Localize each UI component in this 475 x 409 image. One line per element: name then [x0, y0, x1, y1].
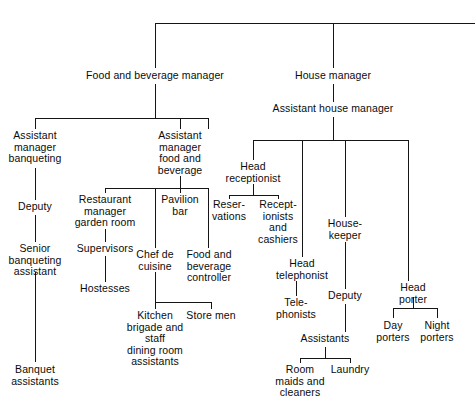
org-node-laundry: Laundry	[331, 364, 370, 376]
connector-restaurant-supervisors	[105, 229, 106, 242]
connector-ahm-bus	[253, 140, 409, 141]
org-node-asst_mgr_fb: Assistant manager food and beverage	[158, 130, 203, 176]
connector-hp-drop-night	[437, 308, 438, 318]
connector-ahm-trunk	[333, 117, 334, 140]
org-node-night_porters: Night porters	[420, 320, 453, 343]
connector-chef-drop-store	[211, 302, 212, 309]
connector-amfb-drop-controller	[208, 188, 209, 248]
org-node-senior_banq_asst: Senior banqueting assistant	[9, 243, 62, 278]
connector-banq-deputy-stem	[35, 168, 36, 200]
connector-deputy-assistants	[345, 304, 346, 332]
org-node-restaurant_manager: Restaurant manager garden room	[75, 194, 136, 229]
connector-hp-drop-day	[393, 308, 394, 318]
org-node-deputy_banqueting: Deputy	[18, 201, 52, 213]
org-node-reservations: Reser- vations	[212, 199, 246, 222]
connector-fb-manager-stem	[155, 23, 156, 68]
connector-fb-bus-right-drop	[208, 118, 209, 129]
org-chart: Food and beverage managerHouse managerAs…	[0, 0, 475, 409]
org-node-house_manager: House manager	[295, 70, 371, 82]
org-node-deputy_housekeeper: Deputy	[328, 290, 362, 302]
org-node-head_receptionist: Head receptionist	[226, 161, 281, 184]
connector-house-to-asst	[333, 84, 334, 102]
connector-senior-banquet-stem	[35, 272, 36, 362]
connector-assistants-bus	[300, 358, 350, 359]
org-node-chef_de_cuisine: Chef de cuisine	[136, 249, 173, 272]
org-node-supervisors: Supervisors	[77, 243, 134, 255]
connector-fb-bus	[35, 118, 209, 119]
org-node-housekeeper: House- keeper	[328, 218, 362, 241]
org-node-asst_mgr_banqueting: Assistant manager banqueting	[9, 130, 62, 165]
connector-amfb-drop-chef	[155, 188, 156, 248]
org-node-pavilion_bar: Pavilion bar	[161, 194, 199, 217]
org-node-telephonists: Tele- phonists	[276, 297, 316, 320]
connector-ahm-drop-telephonist	[302, 140, 303, 257]
connector-fb-bus-left-drop	[35, 118, 36, 129]
org-node-fb_controller: Food and beverage controller	[186, 249, 231, 284]
org-node-head_telephonist: Head telephonist	[276, 258, 328, 281]
org-node-kitchen_brigade: Kitchen brigade and staff dining room as…	[127, 310, 184, 368]
org-node-hostesses: Hostesses	[80, 283, 130, 295]
connector-house-manager-stem	[333, 23, 334, 68]
org-node-day_porters: Day porters	[376, 320, 409, 343]
connector-asst-mgr-fb-drop	[180, 118, 181, 129]
connector-hr-bus	[229, 195, 279, 196]
connector-hr-trunk	[253, 184, 254, 195]
connector-supervisors-hostesses	[105, 256, 106, 282]
connector-chef-trunk	[155, 272, 156, 302]
org-node-asst_house_manager: Assistant house manager	[273, 103, 394, 115]
connector-amfb-trunk	[180, 176, 181, 188]
org-node-fb_manager: Food and beverage manager	[86, 70, 224, 82]
connector-deputy-senior-stem	[35, 215, 36, 242]
connector-hk-deputy	[345, 242, 346, 289]
org-node-assistants: Assistants	[301, 333, 350, 345]
connector-top-bus	[155, 23, 475, 24]
connector-chef-bus	[155, 302, 211, 303]
connector-chef-drop-kitchen	[155, 302, 156, 309]
connector-ahm-drop-porter	[408, 140, 409, 281]
org-node-room_maids_cleaners: Room maids and cleaners	[275, 364, 324, 399]
connector-ahm-drop-reception	[253, 140, 254, 160]
connector-ht-trunk	[296, 281, 297, 296]
org-node-banquet_assistants: Banquet assistants	[11, 364, 59, 387]
org-node-head_porter: Head porter	[399, 282, 427, 305]
org-node-store_men: Store men	[186, 310, 235, 322]
connector-assistants-trunk	[325, 347, 326, 358]
connector-hp-bus	[393, 308, 438, 309]
connector-fb-trunk	[155, 84, 156, 118]
connector-amfb-bus	[105, 188, 209, 189]
connector-ahm-drop-housekeeper	[345, 140, 346, 217]
org-node-receptionists_cashiers: Recept- ionists and cashiers	[258, 199, 298, 245]
